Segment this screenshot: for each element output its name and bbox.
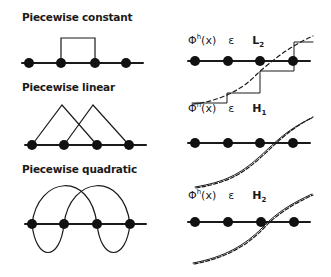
h1-approximation-plot [188,117,313,188]
mesh-nodes [24,56,299,229]
piecewise-linear-basis [25,105,146,145]
diagram-canvas [0,0,331,277]
h2-approximation-plot [188,194,313,264]
piecewise-quadratic-basis [25,186,146,253]
l2-approximation-plot [188,36,313,104]
